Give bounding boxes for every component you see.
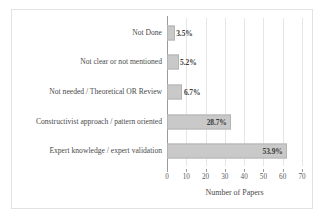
bar-value-label: 3.5% xyxy=(176,28,192,37)
tick-mark xyxy=(302,169,303,172)
bar-row: Expert knowledge / expert validation53.9… xyxy=(167,136,302,166)
category-label: Constructivist approach / pattern orient… xyxy=(12,117,162,126)
tick-label: 40 xyxy=(241,173,248,181)
x-axis-title: Number of Papers xyxy=(167,188,302,197)
tick-label: 10 xyxy=(183,173,190,181)
tick-label: 30 xyxy=(221,173,228,181)
bar-value-label: 28.7% xyxy=(207,117,227,126)
tick-label: 0 xyxy=(165,173,169,181)
tick-mark xyxy=(263,169,264,172)
category-label: Not Done xyxy=(12,28,162,37)
tick-mark xyxy=(225,169,226,172)
tick-label: 50 xyxy=(260,173,267,181)
bar xyxy=(167,84,182,99)
tick-mark xyxy=(206,169,207,172)
bar-value-label: 53.9% xyxy=(263,147,283,156)
bar-row: Not needed / Theoretical OR Review6.7% xyxy=(167,77,302,107)
tick-mark xyxy=(167,169,168,172)
category-label: Not clear or not mentioned xyxy=(12,58,162,67)
tick-label: 60 xyxy=(279,173,286,181)
bar-chart-figure: Not Done3.5%Not clear or not mentioned5.… xyxy=(0,0,324,218)
x-axis-ticks: 010203040506070 xyxy=(167,169,302,183)
bar xyxy=(167,55,179,70)
tick-mark xyxy=(283,169,284,172)
tick-mark xyxy=(244,169,245,172)
bar-value-label: 6.7% xyxy=(184,87,200,96)
tick-label: 70 xyxy=(298,173,305,181)
tick-mark xyxy=(186,169,187,172)
plot-area: Not Done3.5%Not clear or not mentioned5.… xyxy=(167,18,302,166)
bar-value-label: 5.2% xyxy=(180,58,196,67)
category-label: Not needed / Theoretical OR Review xyxy=(12,87,162,96)
tick-label: 20 xyxy=(202,173,209,181)
bar-row: Not clear or not mentioned5.2% xyxy=(167,48,302,78)
gridline xyxy=(302,18,303,166)
bar xyxy=(167,25,175,40)
bar-row: Constructivist approach / pattern orient… xyxy=(167,107,302,137)
bar-row: Not Done3.5% xyxy=(167,18,302,48)
category-label: Expert knowledge / expert validation xyxy=(12,146,162,155)
